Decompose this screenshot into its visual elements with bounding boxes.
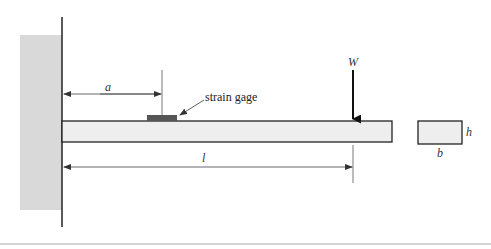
beam (62, 121, 392, 142)
cross-section (418, 121, 462, 144)
label-strain-gage: strain gage (205, 90, 257, 104)
label-a: a (105, 80, 111, 94)
cantilever-diagram: a strain gage W l h b (0, 0, 491, 249)
label-b: b (437, 146, 443, 160)
label-l: l (202, 151, 206, 165)
strain-gage (147, 115, 177, 121)
strain-gage-leader-arrow (180, 100, 204, 115)
label-h: h (466, 125, 472, 139)
wall-support (20, 35, 62, 210)
label-W: W (348, 55, 359, 69)
